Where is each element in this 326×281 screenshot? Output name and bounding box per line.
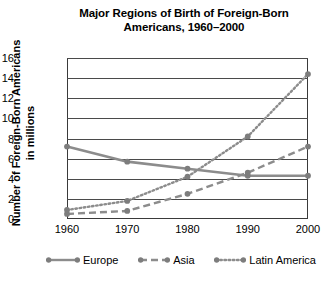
x-axis-tick-label: 1990 <box>225 223 271 235</box>
legend-swatch-icon <box>46 254 80 266</box>
legend-item-europe[interactable]: Europe <box>46 254 118 266</box>
legend-item-asia[interactable]: Asia <box>138 254 194 266</box>
plot-area <box>67 58 308 219</box>
series-overlay <box>67 58 308 219</box>
y-axis-tick-label: 2 <box>0 193 14 204</box>
x-axis-tick-label: 2000 <box>285 223 326 235</box>
y-axis-tick-label: 14 <box>0 73 14 84</box>
data-point-marker <box>124 208 130 214</box>
y-axis-tick-label: 0 <box>0 214 14 225</box>
chart-title-line-1: Major Regions of Birth of Foreign-Born <box>79 7 289 19</box>
y-axis-tick-label: 4 <box>0 173 14 184</box>
data-point-marker <box>245 134 251 140</box>
data-point-marker <box>124 159 130 165</box>
y-axis-tick-label: 12 <box>0 93 14 104</box>
data-point-marker <box>185 174 191 180</box>
data-point-marker <box>64 207 70 213</box>
legend-swatch-icon <box>214 254 246 266</box>
chart-title-line-2: Americans, 1960–2000 <box>48 20 320 34</box>
data-point-marker <box>305 71 311 77</box>
y-axis-tick-label: 6 <box>0 153 14 164</box>
series-line <box>67 74 308 210</box>
data-point-marker <box>185 166 191 172</box>
y-axis-tick-label: 8 <box>0 133 14 144</box>
legend-swatch-icon <box>138 254 170 266</box>
y-axis-tick-label: 16 <box>0 53 14 64</box>
data-point-marker <box>305 173 311 179</box>
data-point-marker <box>185 191 191 197</box>
legend-label: Asia <box>173 254 194 266</box>
y-axis-tick-label: 10 <box>0 113 14 124</box>
y-axis-title-line-2: in millions <box>23 39 37 226</box>
chart-figure: Major Regions of Birth of Foreign-Born A… <box>0 0 326 281</box>
data-point-marker <box>305 144 311 150</box>
chart-title: Major Regions of Birth of Foreign-Born A… <box>48 6 320 34</box>
chart-legend: EuropeAsiaLatin America <box>46 250 316 270</box>
legend-item-latin-america[interactable]: Latin America <box>214 254 316 266</box>
legend-label: Europe <box>83 254 118 266</box>
x-axis-tick-label: 1960 <box>44 223 90 235</box>
x-axis-tick-label: 1980 <box>165 223 211 235</box>
data-point-marker <box>124 198 130 204</box>
x-axis-tick-label: 1970 <box>104 223 150 235</box>
data-point-marker <box>64 144 70 150</box>
data-point-marker <box>245 170 251 176</box>
legend-label: Latin America <box>249 254 316 266</box>
